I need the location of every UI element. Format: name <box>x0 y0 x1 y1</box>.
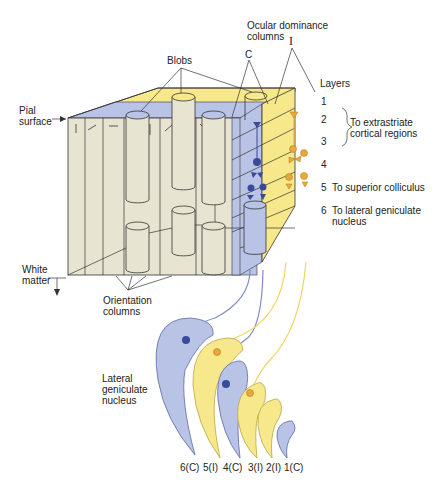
blob-cylinder <box>202 226 225 275</box>
lgn-label: Lateral geniculate nucleus <box>102 373 148 406</box>
lgn-layer-label: 3(I) <box>248 462 263 473</box>
layer-number: 6 <box>321 205 327 216</box>
blobs-label: Blobs <box>167 55 192 66</box>
orientation-columns-label: Orientation columns <box>103 295 152 317</box>
lgn-neuron <box>182 336 190 344</box>
lgn-layer-label: 5(I) <box>203 462 218 473</box>
lgn-layer-1 <box>277 421 295 458</box>
layer-number: 4 <box>321 159 327 170</box>
layers-heading: Layers <box>320 78 350 89</box>
layer-number: 3 <box>321 136 327 147</box>
lgn-layer-label: 1(C) <box>284 462 303 473</box>
lgn-neuron <box>214 349 221 356</box>
ipsilateral-label: I <box>289 36 293 47</box>
blob-cylinder <box>126 115 149 203</box>
layer-number: 5 <box>321 182 327 193</box>
lgn-layer-label: 6(C) <box>180 462 199 473</box>
lateral-geniculate-label: To lateral geniculate nucleus <box>332 205 421 227</box>
pial-surface-label: Pial surface <box>19 105 52 127</box>
diagram-svg <box>0 0 436 489</box>
superior-colliculus-label: To superior colliculus <box>332 182 425 193</box>
extrastriate-label: To extrastriate cortical regions <box>350 117 417 139</box>
blob-cylinder <box>172 210 195 256</box>
blob-cylinder <box>126 226 149 273</box>
white-matter-label: White matter <box>22 264 50 286</box>
layer-number: 1 <box>321 96 327 107</box>
blob-cylinder <box>202 115 225 205</box>
contralateral-label: C <box>245 49 252 60</box>
visual-cortex-diagram: Blobs Ocular dominance columns C I Layer… <box>0 0 436 489</box>
lgn-shapes <box>156 318 295 458</box>
lgn-neuron <box>222 380 230 388</box>
layer-number: 2 <box>321 114 327 125</box>
blob-cylinder <box>172 97 195 190</box>
ocular-dominance-label: Ocular dominance columns <box>247 20 328 42</box>
lgn-neuron <box>247 390 254 397</box>
lgn-layer-label: 2(I) <box>266 462 281 473</box>
lgn-layer-label: 4(C) <box>223 462 242 473</box>
